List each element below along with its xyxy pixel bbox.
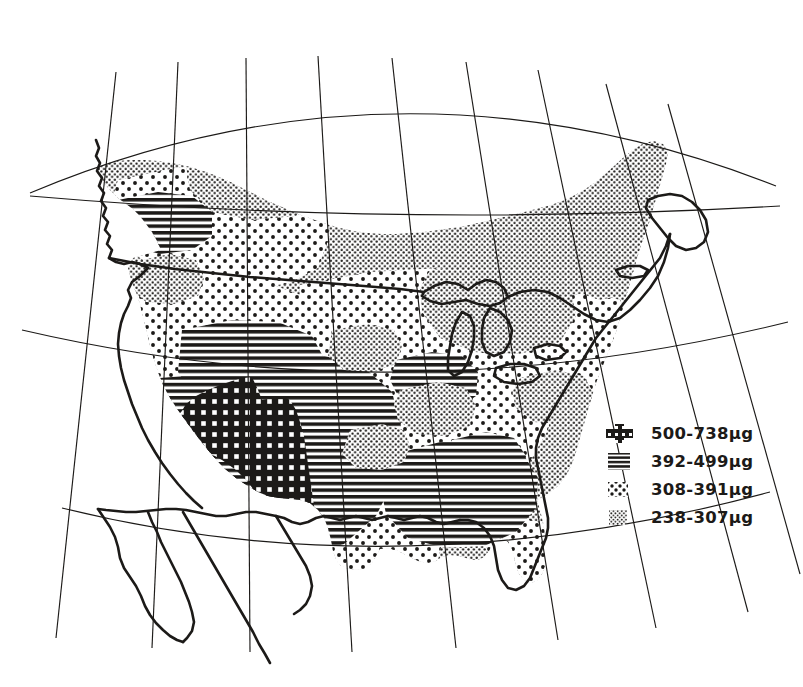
legend-label-class-2: 392-499µg xyxy=(651,452,753,471)
hatch-swatch xyxy=(606,452,640,471)
map-canvas xyxy=(0,0,803,687)
map-legend: 500-738µg 392-499µg 308-391µg 238-307µg xyxy=(606,424,796,527)
legend-label-class-3: 308-391µg xyxy=(651,480,753,499)
patch-nebraska xyxy=(328,324,402,372)
medium-dot-swatch xyxy=(606,480,640,499)
patch-arkansas xyxy=(342,424,410,470)
legend-row-class-3: 308-391µg xyxy=(606,480,796,499)
legend-label-class-1: 500-738µg xyxy=(651,424,753,443)
legend-label-class-4: 238-307µg xyxy=(651,508,753,527)
legend-row-class-1: 500-738µg xyxy=(606,424,796,443)
checker-swatch xyxy=(606,424,640,443)
legend-row-class-2: 392-499µg xyxy=(606,452,796,471)
legend-row-class-4: 238-307µg xyxy=(606,508,796,527)
fine-dot-swatch xyxy=(606,508,640,527)
map-figure xyxy=(0,0,803,687)
patch-oregon-interior xyxy=(130,254,204,304)
